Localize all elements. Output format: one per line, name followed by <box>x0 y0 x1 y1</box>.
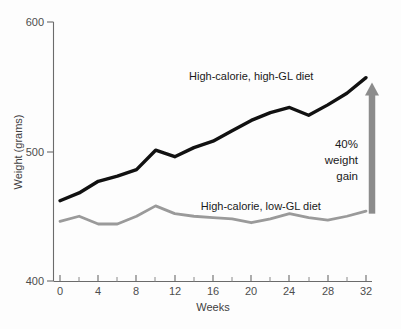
y-tick-label-400: 400 <box>26 275 44 287</box>
weight-gain-line-3: gain <box>336 170 358 182</box>
x-tick-label-16: 16 <box>207 285 219 297</box>
x-tick-label-24: 24 <box>283 285 295 297</box>
x-axis-title: Weeks <box>196 301 230 313</box>
weight-gain-line-1: 40% <box>335 138 358 150</box>
weight-gain-arrow <box>365 83 379 214</box>
x-tick-label-32: 32 <box>360 285 372 297</box>
weight-gain-line-2: weight <box>324 154 359 166</box>
series-label-low-gl: High-calorie, low-GL diet <box>201 200 321 212</box>
x-tick-label-12: 12 <box>169 285 181 297</box>
x-tick-label-0: 0 <box>57 285 63 297</box>
x-tick-label-20: 20 <box>245 285 257 297</box>
x-tick-label-28: 28 <box>322 285 334 297</box>
chart-page: 600 500 400 Weight (grams) 0 4 8 12 16 2… <box>0 0 401 329</box>
series-line-high-gl <box>60 78 366 201</box>
weight-gain-arrow-head <box>365 83 379 96</box>
y-tick-label-500: 500 <box>26 146 44 158</box>
x-tick-label-4: 4 <box>95 285 101 297</box>
x-tick-label-8: 8 <box>133 285 139 297</box>
series-label-high-gl: High-calorie, high-GL diet <box>189 70 313 82</box>
line-chart: 600 500 400 Weight (grams) 0 4 8 12 16 2… <box>0 0 401 329</box>
y-tick-label-600: 600 <box>26 16 44 28</box>
y-axis-title: Weight (grams) <box>12 115 24 190</box>
